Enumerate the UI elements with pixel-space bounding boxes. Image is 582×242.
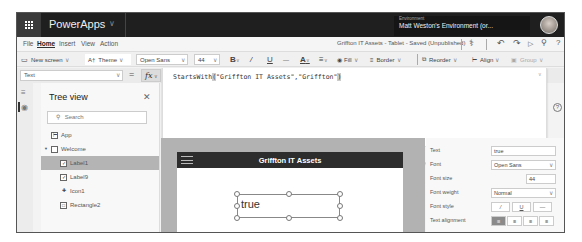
prop-font-size: Font size 44 bbox=[426, 172, 565, 186]
environment-name: Matt Weston's Environment (or... bbox=[399, 22, 530, 29]
formula-input[interactable]: StartsWith("Griffton IT Assets","Griffto… bbox=[173, 73, 341, 81]
tree-item-welcome[interactable]: ▼ Welcome bbox=[41, 142, 159, 156]
tree-item-label1[interactable]: ✓ Label1 bbox=[41, 156, 159, 170]
font-dropdown-value: Open Sans bbox=[494, 162, 522, 168]
user-share-icon[interactable]: ⚲ bbox=[541, 38, 547, 47]
font-size-select[interactable]: 44 ∨ bbox=[194, 54, 220, 65]
italic-toggle[interactable]: / bbox=[491, 202, 510, 212]
strikethrough-toggle[interactable]: — bbox=[533, 202, 552, 212]
help-circle-icon[interactable]: ? bbox=[553, 103, 562, 112]
tree-item-app[interactable]: ⊢ App bbox=[41, 128, 159, 142]
search-icon: ⚲ bbox=[56, 114, 60, 120]
chevron-down-icon[interactable]: ∨ bbox=[109, 19, 115, 28]
help-icon[interactable]: ? bbox=[556, 38, 560, 47]
strikethrough-button[interactable]: — bbox=[283, 54, 289, 65]
waffle-icon bbox=[25, 21, 33, 29]
app-name[interactable]: PowerApps bbox=[49, 18, 105, 30]
menu-view[interactable]: View bbox=[81, 40, 95, 47]
property-select[interactable]: Text ∨ bbox=[20, 70, 123, 81]
underline-toggle[interactable]: U bbox=[512, 202, 531, 212]
resize-handle[interactable] bbox=[234, 215, 240, 221]
border-button[interactable]: ≡ Border ∨ bbox=[370, 54, 401, 65]
resize-handle[interactable] bbox=[234, 191, 240, 197]
tree-item-icon1[interactable]: ✚ Icon1 bbox=[41, 184, 159, 198]
tree-item-label: Welcome bbox=[61, 142, 86, 156]
theme-button[interactable]: A† Theme ∨ bbox=[85, 54, 131, 65]
app-launcher-button[interactable] bbox=[17, 13, 41, 37]
document-title: Griffton IT Assets - Tablet - Saved (Unp… bbox=[337, 40, 465, 46]
divider bbox=[417, 54, 418, 65]
tree-item-label: Label9 bbox=[70, 170, 88, 184]
app-screen-welcome[interactable]: Griffton IT Assets true bbox=[177, 152, 403, 233]
layers-icon[interactable]: ◉ bbox=[21, 103, 28, 112]
menu-file[interactable]: File bbox=[23, 40, 33, 47]
chevron-down-icon: ∨ bbox=[116, 71, 120, 80]
menu-home[interactable]: Home bbox=[37, 40, 55, 48]
chevron-down-icon: ∨ bbox=[213, 56, 217, 63]
italic-icon: / bbox=[250, 55, 252, 64]
label1-control[interactable]: true bbox=[237, 194, 340, 218]
resize-handle[interactable] bbox=[286, 191, 292, 197]
undo-icon[interactable]: ↶ bbox=[497, 38, 505, 48]
chevron-down-icon: ∨ bbox=[65, 56, 69, 63]
text-input[interactable]: true bbox=[491, 146, 556, 156]
italic-button[interactable]: / bbox=[250, 54, 252, 65]
app-icon: ⊢ bbox=[51, 132, 58, 139]
reorder-button[interactable]: ⧉ Reorder ∨ bbox=[422, 54, 457, 65]
environment-picker[interactable]: Environment Matt Weston's Environment (o… bbox=[394, 16, 530, 36]
align-justify-button[interactable]: ≡ bbox=[539, 216, 554, 226]
chevron-down-icon: ∨ bbox=[119, 56, 123, 63]
resize-handle[interactable] bbox=[234, 203, 240, 209]
prop-text-alignment: Text alignment ≡ ≡ ≡ ≡ bbox=[426, 214, 565, 228]
font-weight-dropdown[interactable]: Normal ∨ bbox=[491, 188, 556, 198]
tree-item-rectangle2[interactable]: □ Rectangle2 bbox=[41, 198, 159, 212]
font-size-input[interactable]: 44 bbox=[526, 174, 556, 184]
menu-insert[interactable]: Insert bbox=[59, 40, 75, 47]
align-left-button[interactable]: ≡ bbox=[491, 216, 506, 226]
text-alignment-buttons: ≡ ≡ ≡ ≡ bbox=[491, 216, 554, 226]
tree-search-input[interactable]: ⚲ Search bbox=[47, 111, 147, 124]
screen-icon: ▭ bbox=[21, 56, 28, 64]
redo-icon[interactable]: ↷ bbox=[513, 38, 521, 48]
play-icon[interactable]: ▷ bbox=[528, 40, 533, 48]
powerapps-window: PowerApps ∨ Environment Matt Weston's En… bbox=[16, 12, 565, 233]
fx-button[interactable]: fx ∨ bbox=[141, 69, 161, 82]
resize-handle[interactable] bbox=[337, 215, 343, 221]
resize-handle[interactable] bbox=[286, 215, 292, 221]
prop-label: Font weight bbox=[430, 189, 458, 195]
prop-label: Font style bbox=[430, 203, 454, 209]
font-select[interactable]: Open Sans ∨ bbox=[136, 54, 188, 65]
menu-action[interactable]: Action bbox=[100, 40, 118, 47]
hamburger-icon[interactable]: ≡ bbox=[21, 88, 26, 97]
design-canvas[interactable]: Griffton IT Assets true bbox=[161, 138, 425, 233]
avatar[interactable] bbox=[540, 16, 558, 34]
group-icon: ▣ bbox=[511, 56, 517, 63]
screen-header: Griffton IT Assets bbox=[177, 152, 403, 168]
close-icon[interactable]: ✕ bbox=[143, 92, 151, 102]
resize-handle[interactable] bbox=[337, 191, 343, 197]
fill-label: Fill bbox=[344, 57, 352, 63]
align-center-button[interactable]: ≡ bbox=[507, 216, 522, 226]
font-dropdown[interactable]: Open Sans ∨ bbox=[491, 160, 556, 170]
formula-function: StartsWith bbox=[173, 73, 212, 81]
reorder-label: Reorder bbox=[429, 57, 451, 63]
fill-button[interactable]: ◉ Fill ∨ bbox=[337, 54, 358, 65]
tree-view-panel: Tree view ✕ ⚲ Search ⊢ App ▼ Welcome ✓ L… bbox=[41, 83, 160, 233]
ribbon-toolbar: ▭ New screen ∨ A† Theme ∨ Open Sans ∨ 44… bbox=[17, 52, 564, 67]
resize-handle[interactable] bbox=[337, 203, 343, 209]
app-checker-icon[interactable]: ⚕ bbox=[469, 38, 474, 48]
align-menu-button[interactable]: ⊢ Align ∨ bbox=[472, 54, 499, 65]
group-button[interactable]: ▣ Group ∨ bbox=[511, 54, 543, 65]
bold-button[interactable]: B∨ bbox=[230, 54, 240, 65]
font-color-button[interactable]: A∨ bbox=[300, 54, 310, 65]
text-align-button[interactable]: ≡∨ bbox=[319, 54, 328, 65]
underline-button[interactable]: U bbox=[267, 54, 273, 65]
collapse-icon[interactable]: ∨ bbox=[538, 71, 542, 77]
align-right-button[interactable]: ≡ bbox=[523, 216, 538, 226]
tree-item-label: Label1 bbox=[70, 156, 88, 170]
property-value: Text bbox=[24, 72, 35, 78]
new-screen-button[interactable]: ▭ New screen ∨ bbox=[21, 54, 69, 65]
equals-sign: = bbox=[129, 69, 134, 79]
tree-item-label9[interactable]: ✓ Label9 bbox=[41, 170, 159, 184]
left-rail: ≡ ◉ bbox=[17, 83, 33, 233]
